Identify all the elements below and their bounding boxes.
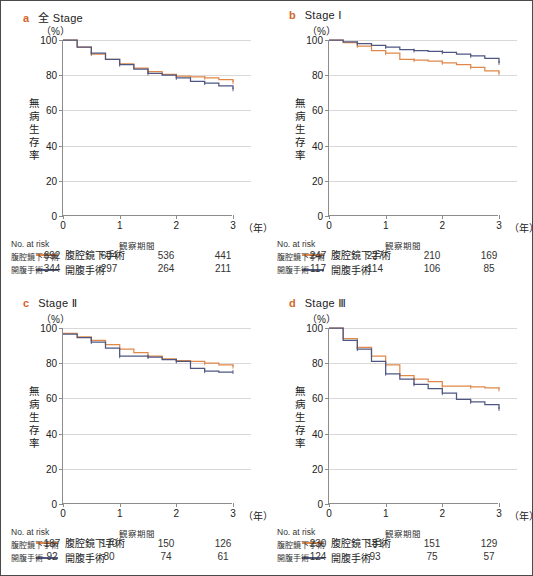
x-tick-label: 1	[383, 220, 389, 231]
y-tick-label: 0	[51, 211, 57, 222]
y-tick-label: 20	[312, 463, 323, 474]
y-axis-label-char: 生	[293, 123, 306, 136]
curve-lap	[329, 40, 499, 73]
y-tick-label: 20	[46, 175, 57, 186]
risk-table-a: No. at risk観察期間腹腔鏡下手術692604536441開腹手術344…	[11, 239, 261, 277]
risk-row-label: 開腹手術	[11, 264, 43, 275]
y-axis-label-char: 率	[27, 149, 40, 162]
risk-value: 74	[160, 551, 171, 562]
y-tick-label: 80	[312, 70, 323, 81]
y-tick-label: 60	[46, 393, 57, 404]
y-tick-label: 100	[306, 323, 323, 334]
figure-container: a全 Stage（%）無病生存率0204060801000123（年）腹腔鏡下手…	[0, 0, 533, 576]
plot-area-d: 0204060801000123（年）	[328, 328, 498, 504]
risk-row-label: 開腹手術	[277, 264, 309, 275]
risk-value: 117	[310, 263, 326, 274]
y-tick-label: 0	[317, 499, 323, 510]
curve-lap	[63, 40, 233, 82]
curve-open	[329, 328, 499, 409]
y-axis-label-char: 無	[27, 97, 40, 110]
risk-value: 150	[158, 538, 175, 549]
panel-title-c: Stage Ⅱ	[38, 297, 77, 310]
y-axis-label-a: 無病生存率	[27, 97, 40, 162]
y-tick-label: 0	[51, 499, 57, 510]
x-axis-unit-b: （年）	[509, 220, 533, 235]
risk-row-open: 開腹手術92807461	[11, 552, 261, 565]
y-axis-label-c: 無病生存率	[27, 385, 40, 450]
panel-title-b: Stage Ⅰ	[305, 9, 342, 22]
risk-value: 441	[215, 250, 232, 261]
y-tick-label: 40	[312, 428, 323, 439]
risk-table-title: No. at risk	[277, 239, 315, 249]
panel-heading-d: dStage Ⅲ	[289, 297, 346, 310]
x-axis-title: 観察期間	[385, 527, 421, 539]
x-axis-title: 観察期間	[119, 239, 155, 251]
risk-value: 93	[369, 551, 380, 562]
x-tick	[499, 215, 500, 219]
y-tick-label: 100	[306, 35, 323, 46]
risk-value: 230	[310, 538, 327, 549]
risk-row-open: 開腹手術344297264211	[11, 264, 261, 277]
panel-heading-b: bStage Ⅰ	[289, 9, 342, 22]
panel-heading-c: cStage Ⅱ	[23, 297, 77, 310]
y-axis-label-char: 無	[27, 385, 40, 398]
y-tick-label: 60	[46, 105, 57, 116]
risk-value: 151	[424, 538, 441, 549]
y-axis-label-d: 無病生存率	[293, 385, 306, 450]
plot-area-c: 0204060801000123（年）	[62, 328, 232, 504]
survival-curves-b	[329, 40, 499, 216]
risk-table-b: No. at risk観察期間腹腔鏡下手術247227210169開腹手術117…	[277, 239, 527, 277]
x-axis-title: 観察期間	[119, 527, 155, 539]
y-axis-label-char: 存	[293, 136, 306, 149]
panel-b: bStage Ⅰ（%）無病生存率0204060801000123（年）腹腔鏡下手…	[267, 1, 533, 289]
y-tick-label: 0	[317, 211, 323, 222]
risk-table-title: No. at risk	[11, 239, 49, 249]
x-tick-label: 3	[230, 220, 236, 231]
risk-value: 536	[158, 250, 175, 261]
y-axis-label-char: 存	[293, 424, 306, 437]
y-tick-label: 40	[312, 140, 323, 151]
panel-letter-a: a	[23, 12, 29, 24]
risk-table-title: No. at risk	[277, 527, 315, 537]
risk-row-label: 開腹手術	[11, 552, 43, 563]
x-tick-label: 2	[440, 220, 446, 231]
risk-row-open: 開腹手術124937557	[277, 552, 527, 565]
x-tick-label: 2	[440, 508, 446, 519]
y-tick-label: 80	[312, 358, 323, 369]
risk-value: 170	[101, 538, 118, 549]
y-axis-label-char: 率	[293, 149, 306, 162]
risk-value: 187	[44, 538, 61, 549]
y-axis-label-char: 存	[27, 136, 40, 149]
x-tick-label: 0	[60, 220, 66, 231]
risk-value: 227	[367, 250, 384, 261]
y-axis-label-char: 生	[27, 411, 40, 424]
y-axis-label-char: 病	[293, 110, 306, 123]
y-axis-label-char: 率	[27, 437, 40, 450]
risk-value: 75	[426, 551, 437, 562]
risk-row-label: 開腹手術	[277, 552, 309, 563]
x-tick-label: 3	[496, 508, 502, 519]
risk-table-title: No. at risk	[11, 527, 49, 537]
y-axis-label-char: 存	[27, 424, 40, 437]
x-tick-label: 3	[230, 508, 236, 519]
risk-value: 61	[217, 551, 228, 562]
x-tick-label: 1	[117, 508, 123, 519]
risk-value: 85	[483, 263, 494, 274]
y-tick-label: 60	[312, 105, 323, 116]
risk-value: 264	[158, 263, 175, 274]
y-axis-label-char: 生	[27, 123, 40, 136]
x-tick-label: 2	[174, 220, 180, 231]
risk-value: 692	[44, 250, 61, 261]
risk-value: 114	[367, 263, 383, 274]
x-tick	[499, 503, 500, 507]
risk-value: 211	[215, 263, 231, 274]
x-tick-label: 1	[383, 508, 389, 519]
risk-value: 181	[367, 538, 384, 549]
plot-area-a: 0204060801000123（年）	[62, 40, 232, 216]
risk-table-c: No. at risk観察期間腹腔鏡下手術187170150126開腹手術928…	[11, 527, 261, 565]
y-tick-label: 80	[46, 358, 57, 369]
panel-a: a全 Stage（%）無病生存率0204060801000123（年）腹腔鏡下手…	[1, 1, 267, 289]
y-axis-label-b: 無病生存率	[293, 97, 306, 162]
x-tick	[233, 215, 234, 219]
curve-open	[63, 40, 233, 89]
